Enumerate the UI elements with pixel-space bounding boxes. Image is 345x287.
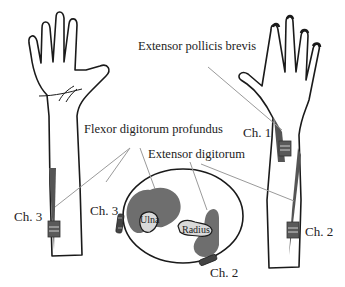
label-ch3-cross-section: Ch. 3 bbox=[90, 204, 118, 217]
label-extensor-pollicis-brevis: Extensor pollicis brevis bbox=[138, 40, 256, 53]
label-flexor-digitorum-profundus: Flexor digitorum profundus bbox=[84, 123, 223, 136]
label-ulna: Ulna bbox=[140, 215, 159, 225]
label-ch1: Ch. 1 bbox=[243, 126, 271, 139]
label-ch2-right-arm: Ch. 2 bbox=[305, 225, 333, 238]
label-ch2-cross-section: Ch. 2 bbox=[210, 266, 238, 279]
emg-electrode-diagram: Extensor pollicis brevis Flexor digitoru… bbox=[0, 0, 345, 287]
forearm-cross-section bbox=[116, 169, 243, 266]
label-radius: Radius bbox=[182, 225, 210, 235]
label-ch3-left-arm: Ch. 3 bbox=[14, 210, 42, 223]
electrode-ch2-right bbox=[287, 222, 299, 238]
label-extensor-digitorum: Extensor digitorum bbox=[148, 148, 245, 161]
electrode-ch3-left bbox=[48, 221, 60, 237]
electrode-ch1 bbox=[279, 141, 291, 156]
